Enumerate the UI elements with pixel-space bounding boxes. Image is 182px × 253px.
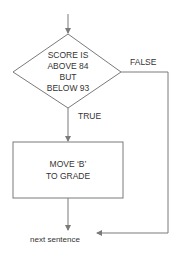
false-label: FALSE	[130, 57, 157, 67]
decision-diamond	[13, 34, 121, 108]
process-line-1: MOVE ‘B’	[50, 159, 87, 169]
decision-line-1: SCORE IS	[48, 50, 89, 60]
next-sentence-label: next sentence	[30, 235, 80, 244]
flowchart: SCORE IS ABOVE 84 BUT BELOW 93 FALSE TRU…	[0, 0, 182, 253]
decision-line-3: BUT	[60, 72, 77, 82]
decision-line-4: BELOW 93	[47, 83, 90, 93]
true-label: TRUE	[78, 111, 101, 121]
decision-line-2: ABOVE 84	[47, 61, 88, 71]
process-line-2: TO GRADE	[46, 171, 91, 181]
process-box	[13, 142, 123, 198]
